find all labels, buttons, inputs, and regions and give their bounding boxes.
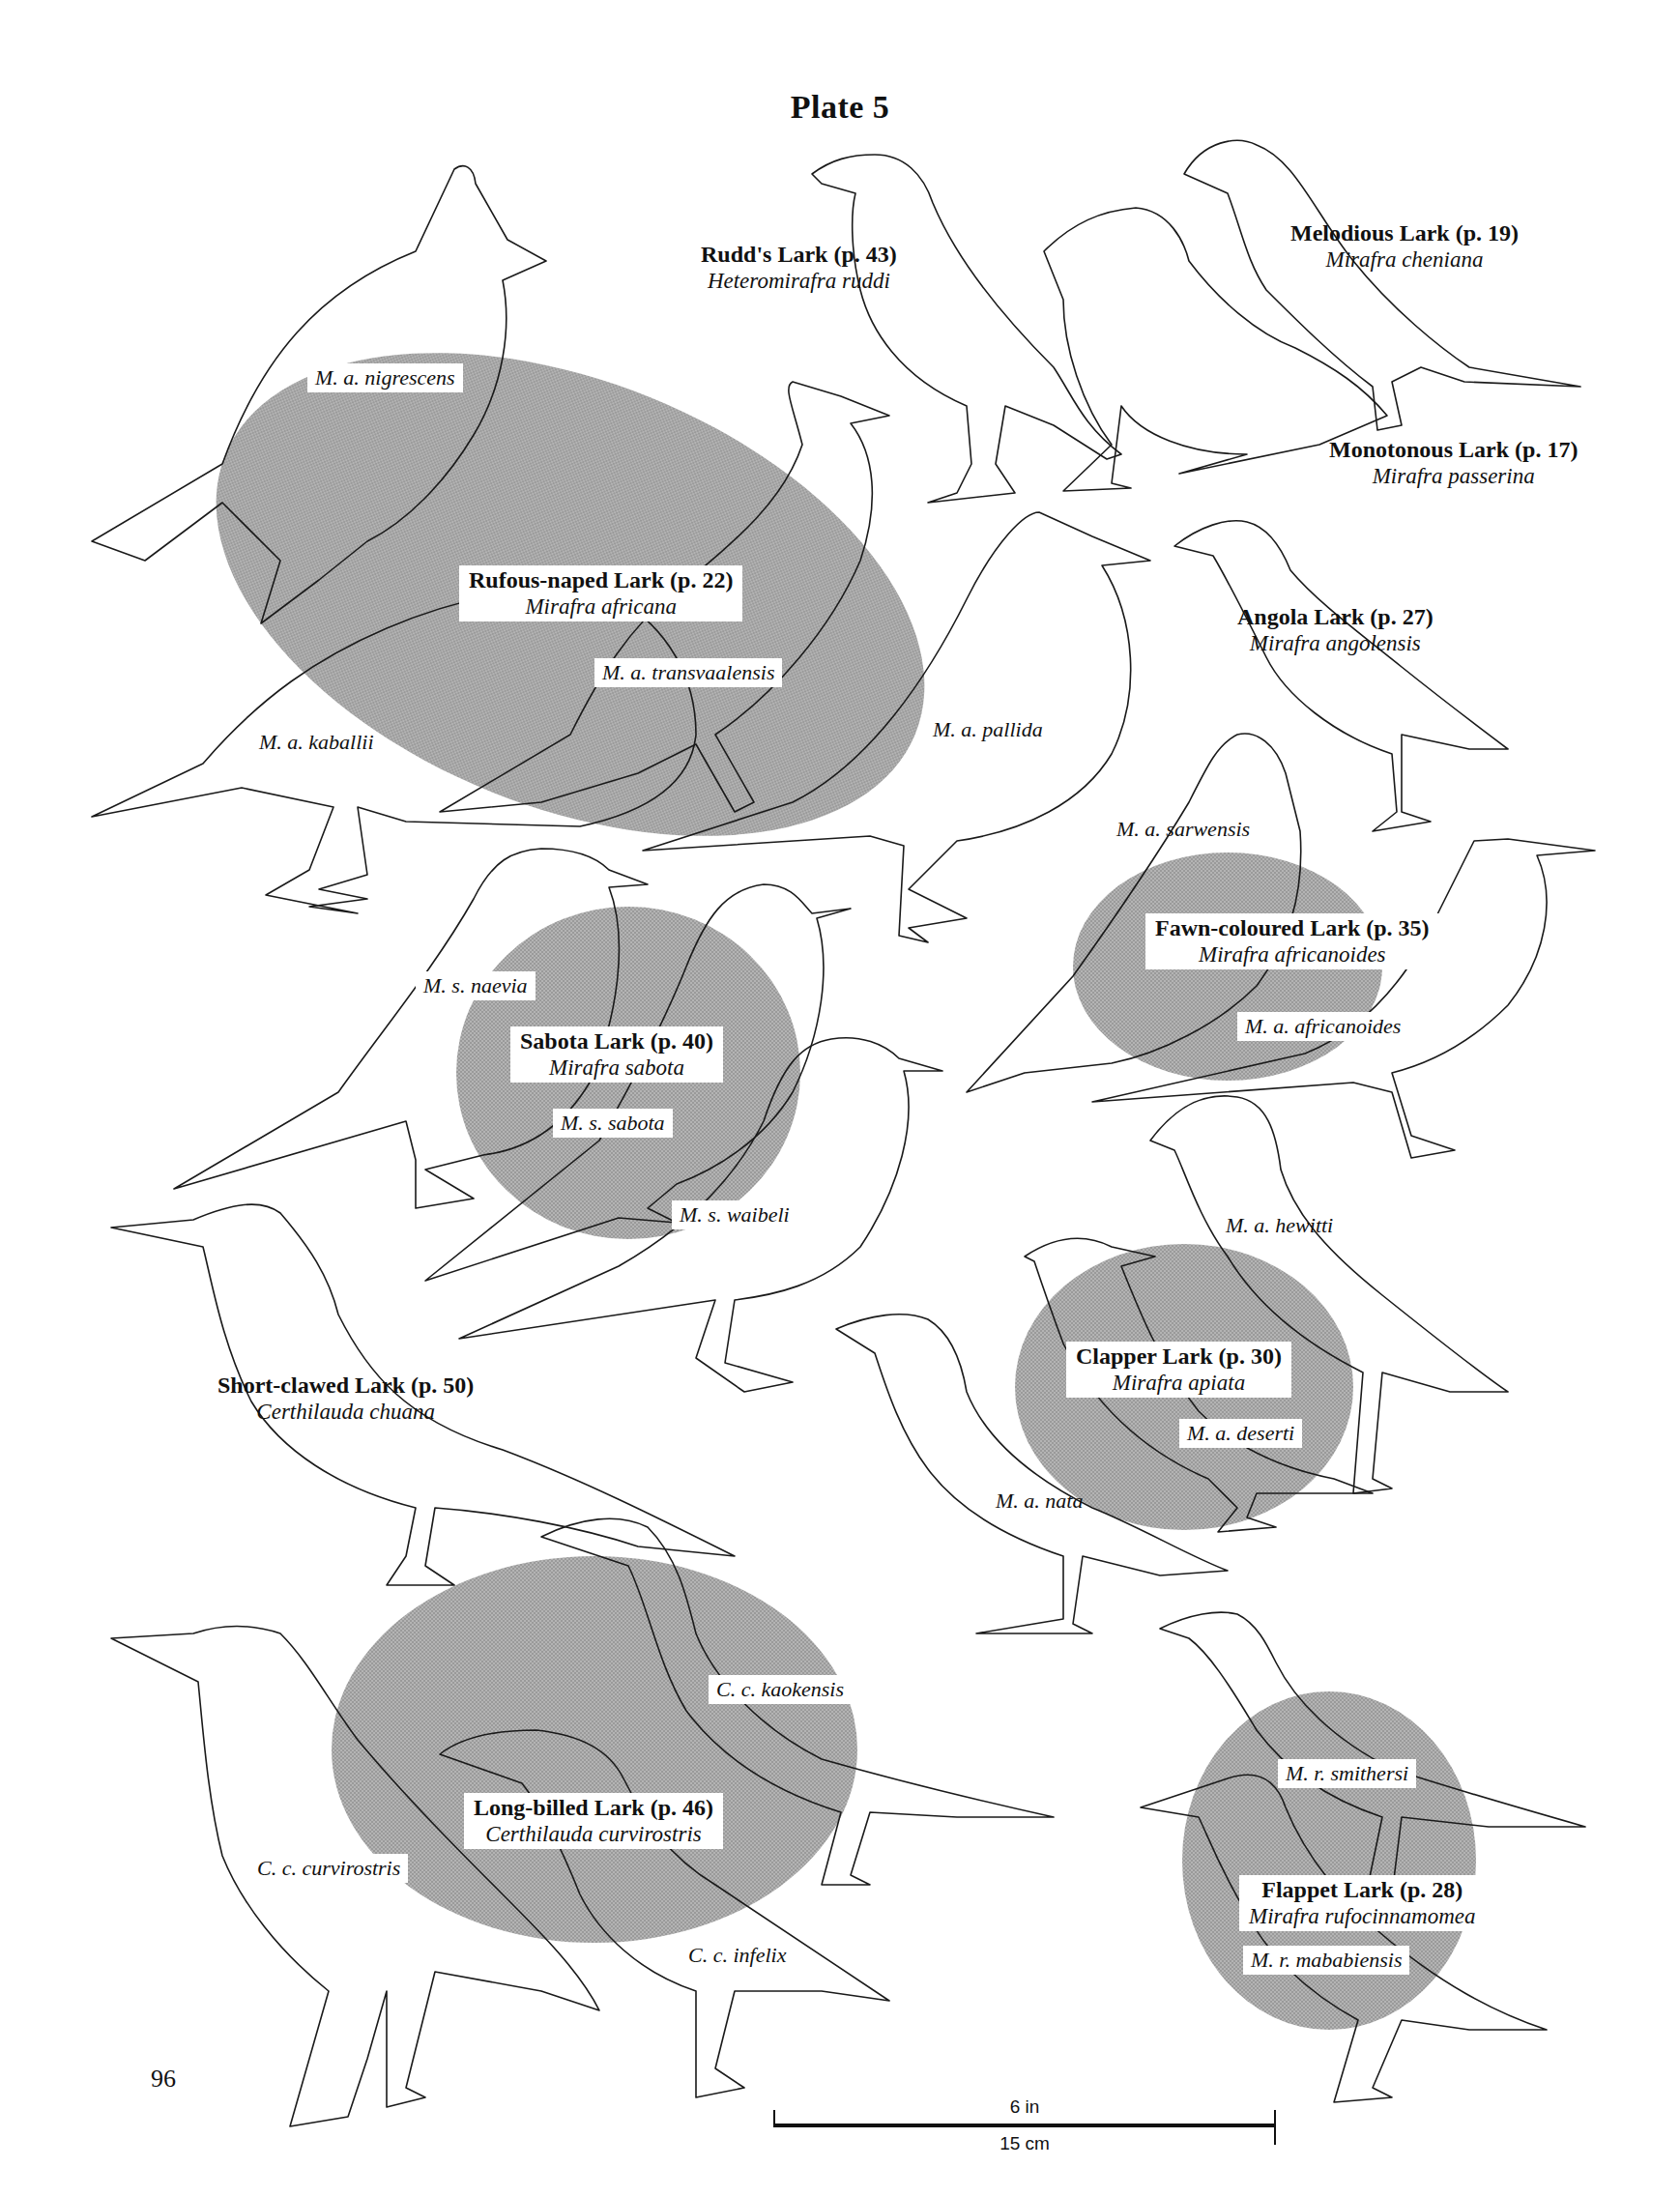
subspecies-label-naevia: M. s. naevia: [416, 971, 536, 1000]
common-name: Long-billed Lark (p. 46): [474, 1795, 713, 1822]
scientific-name: Mirafra angolensis: [1237, 631, 1434, 656]
species-label-rufous-naped: Rufous-naped Lark (p. 22) Mirafra africa…: [459, 565, 742, 621]
scale-bar: 6 in 15 cm: [773, 2102, 1276, 2170]
scientific-name: Mirafra sabota: [520, 1055, 713, 1081]
species-label-melodious: Melodious Lark (p. 19) Mirafra cheniana: [1290, 220, 1519, 273]
scientific-name: Mirafra africanoides: [1155, 942, 1430, 968]
scale-bar-line: [773, 2124, 1276, 2127]
species-label-sabota: Sabota Lark (p. 40) Mirafra sabota: [510, 1026, 723, 1083]
subspecies-label-hewitti: M. a. hewitti: [1226, 1213, 1333, 1238]
species-label-short-clawed: Short-clawed Lark (p. 50) Certhilauda ch…: [217, 1372, 474, 1425]
subspecies-label-curvirostris: C. c. curvirostris: [249, 1854, 408, 1883]
common-name: Sabota Lark (p. 40): [520, 1028, 713, 1055]
species-label-monotonous: Monotonous Lark (p. 17) Mirafra passerin…: [1329, 437, 1578, 489]
subspecies-label-sarwensis: M. a. sarwensis: [1116, 817, 1250, 842]
bird-silhouette-angola: [1174, 521, 1508, 831]
page-number: 96: [151, 2065, 176, 2094]
common-name: Monotonous Lark (p. 17): [1329, 437, 1578, 464]
long-billed-range-ellipse: [332, 1556, 857, 1943]
common-name: Rudd's Lark (p. 43): [701, 242, 897, 269]
common-name: Rufous-naped Lark (p. 22): [469, 567, 733, 594]
subspecies-label-nigrescens: M. a. nigrescens: [307, 363, 463, 392]
subspecies-label-waibeli: M. s. waibeli: [672, 1200, 797, 1229]
subspecies-label-africanoides: M. a. africanoides: [1237, 1012, 1408, 1041]
common-name: Melodious Lark (p. 19): [1290, 220, 1519, 247]
scientific-name: Certhilauda chuana: [217, 1400, 474, 1425]
flappet-range-ellipse: [1182, 1691, 1476, 2030]
bird-silhouette-melodious: [1184, 140, 1580, 430]
species-label-fawn-coloured: Fawn-coloured Lark (p. 35) Mirafra afric…: [1145, 913, 1439, 969]
scientific-name: Mirafra passerina: [1329, 464, 1578, 489]
species-label-rudds: Rudd's Lark (p. 43) Heteromirafra ruddi: [701, 242, 897, 294]
scientific-name: Mirafra africana: [469, 594, 733, 620]
bird-silhouette-rudds: [812, 155, 1121, 503]
common-name: Clapper Lark (p. 30): [1076, 1344, 1282, 1371]
subspecies-label-deserti: M. a. deserti: [1179, 1419, 1302, 1448]
common-name: Angola Lark (p. 27): [1237, 604, 1434, 631]
subspecies-label-nata: M. a. nata: [996, 1488, 1083, 1514]
species-label-angola: Angola Lark (p. 27) Mirafra angolensis: [1237, 604, 1434, 656]
subspecies-label-mababiensis: M. r. mababiensis: [1243, 1946, 1409, 1975]
scientific-name: Mirafra apiata: [1076, 1371, 1282, 1396]
plate-title: Plate 5: [0, 89, 1680, 126]
subspecies-label-transvaalensis: M. a. transvaalensis: [594, 658, 782, 687]
subspecies-label-kaballii: M. a. kaballii: [259, 730, 374, 755]
subspecies-label-infelix: C. c. infelix: [688, 1943, 786, 1968]
species-label-flappet: Flappet Lark (p. 28) Mirafra rufocinnamo…: [1239, 1875, 1485, 1931]
common-name: Short-clawed Lark (p. 50): [217, 1372, 474, 1400]
subspecies-label-kaokensis: C. c. kaokensis: [709, 1675, 852, 1704]
common-name: Fawn-coloured Lark (p. 35): [1155, 915, 1430, 942]
scientific-name: Mirafra rufocinnamomea: [1249, 1904, 1475, 1929]
subspecies-label-smithersi: M. r. smithersi: [1278, 1759, 1416, 1788]
scientific-name: Mirafra cheniana: [1290, 247, 1519, 273]
scale-bar-imperial-label: 6 in: [773, 2096, 1276, 2118]
scientific-name: Certhilauda curvirostris: [474, 1822, 713, 1847]
subspecies-label-sabota: M. s. sabota: [553, 1109, 673, 1138]
species-label-clapper: Clapper Lark (p. 30) Mirafra apiata: [1066, 1342, 1291, 1398]
species-label-long-billed: Long-billed Lark (p. 46) Certhilauda cur…: [464, 1793, 723, 1849]
scientific-name: Heteromirafra ruddi: [701, 269, 897, 294]
scale-bar-metric-label: 15 cm: [773, 2133, 1276, 2154]
common-name: Flappet Lark (p. 28): [1249, 1877, 1475, 1904]
subspecies-label-pallida: M. a. pallida: [933, 717, 1043, 742]
